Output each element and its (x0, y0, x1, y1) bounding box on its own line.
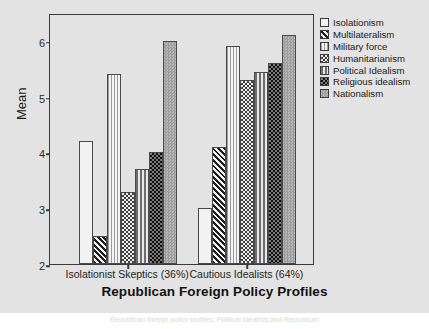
bar (212, 147, 226, 264)
bar (240, 80, 254, 264)
legend-swatch-icon (320, 66, 329, 75)
y-axis-tick-mark (46, 154, 50, 156)
legend-item[interactable]: Political Idealism (320, 64, 410, 76)
bar (107, 74, 121, 264)
y-axis-tick-mark (46, 42, 50, 44)
legend-swatch-icon (320, 30, 329, 39)
x-axis-category-label: Isolationist Skeptics (36%) (66, 268, 189, 280)
x-axis-category-label: Cautious Idealists (64%) (190, 268, 304, 280)
legend-item-label: Religious idealism (333, 76, 410, 87)
bar (254, 72, 268, 264)
legend-item-label: Isolationism (333, 17, 384, 28)
y-axis-label: Mean (14, 87, 29, 120)
bar (93, 236, 107, 264)
chart-legend: IsolationismMultilateralismMilitary forc… (318, 14, 413, 103)
legend-swatch-icon (320, 18, 329, 27)
legend-item-label: Multilateralism (333, 29, 394, 40)
legend-item[interactable]: Isolationism (320, 17, 410, 29)
figure-container: Mean 23456 Republican Foreign Policy Pro… (0, 0, 429, 313)
legend-swatch-icon (320, 42, 329, 51)
figure-caption: Republican foreign policy profiles: Poli… (0, 316, 429, 323)
bar-group (79, 15, 177, 264)
y-axis-tick-mark (46, 98, 50, 100)
bar (198, 208, 212, 264)
x-axis-label: Republican Foreign Policy Profiles (0, 284, 429, 299)
bar (149, 152, 163, 264)
bar (226, 46, 240, 264)
legend-item[interactable]: Multilateralism (320, 29, 410, 41)
plot-area: 23456 (50, 15, 313, 264)
legend-item-label: Humanitarianism (333, 53, 405, 64)
legend-item[interactable]: Religious idealism (320, 76, 410, 88)
legend-swatch-icon (320, 54, 329, 63)
legend-item[interactable]: Nationalism (320, 88, 410, 100)
bar-group (198, 15, 296, 264)
legend-item-label: Political Idealism (333, 65, 404, 76)
legend-swatch-icon (320, 89, 329, 98)
y-axis-tick-mark (46, 265, 50, 267)
legend-item-label: Military force (333, 41, 387, 52)
bar (282, 35, 296, 264)
plot-frame: 23456 (49, 14, 314, 265)
bar (163, 41, 177, 264)
legend-item[interactable]: Humanitarianism (320, 52, 410, 64)
bar (79, 141, 93, 264)
legend-item[interactable]: Military force (320, 41, 410, 53)
bar (268, 63, 282, 264)
legend-item-label: Nationalism (333, 88, 383, 99)
legend-swatch-icon (320, 77, 329, 86)
bar (135, 169, 149, 264)
y-axis-tick-mark (46, 209, 50, 211)
bar (121, 192, 135, 265)
